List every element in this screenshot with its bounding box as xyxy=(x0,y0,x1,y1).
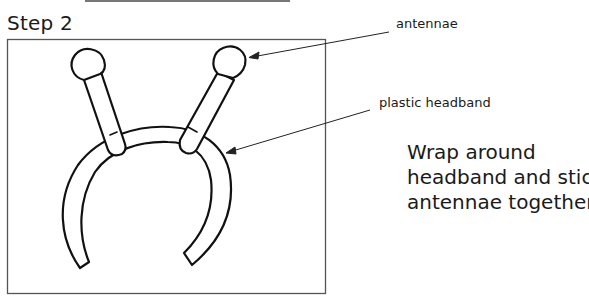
antennae-arrowhead xyxy=(249,52,259,59)
headband-label: plastic headband xyxy=(379,95,491,111)
headband-illustration xyxy=(63,47,246,268)
headband-arrowhead xyxy=(226,147,236,154)
headband-leader-line xyxy=(229,110,370,152)
leader-lines xyxy=(226,32,389,154)
diagram-frame xyxy=(8,40,326,294)
antennae-leader-line xyxy=(252,32,389,57)
instructions-text: Wrap around headband and stick antennae … xyxy=(407,140,587,215)
right-antenna-knob xyxy=(213,47,245,78)
headband-shape xyxy=(63,127,231,268)
instruction-line: headband and stick xyxy=(407,165,587,190)
antennae-label: antennae xyxy=(396,16,458,32)
instruction-line: antennae together. xyxy=(407,190,587,215)
instruction-line: Wrap around xyxy=(407,140,587,165)
